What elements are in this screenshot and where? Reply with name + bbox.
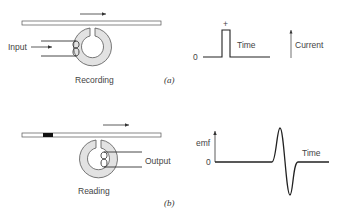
coil-winding-icon — [101, 152, 142, 167]
recording-caption: Recording — [75, 75, 114, 85]
reading-caption: Reading — [78, 186, 110, 196]
reading-head-icon — [80, 140, 118, 178]
input-label: Input — [8, 42, 28, 52]
magnetic-tape — [22, 133, 161, 137]
emf-label: emf — [196, 138, 211, 148]
time-label: Time — [237, 40, 256, 50]
current-label: Current — [295, 40, 324, 50]
panel-a-recording: Input Recording (a) 0 + Time Current — [8, 14, 324, 85]
panel-a-label: (a) — [164, 75, 175, 85]
magnetized-region — [43, 133, 53, 137]
time-label: Time — [302, 148, 321, 158]
panel-b-label: (b) — [164, 198, 175, 208]
recording-head-icon — [73, 28, 111, 66]
zero-label: 0 — [206, 157, 211, 167]
output-label: Output — [145, 156, 171, 166]
zero-label: 0 — [193, 52, 198, 62]
magnetic-recording-diagram: Input Recording (a) 0 + Time Current Ou — [0, 0, 345, 218]
panel-b-reading: Output Reading (b) emf 0 Time — [22, 125, 329, 208]
plus-label: + — [223, 19, 228, 29]
magnetic-tape — [22, 21, 161, 25]
emf-graph: emf 0 Time — [196, 128, 329, 195]
current-pulse-graph: 0 + Time Current — [193, 19, 324, 62]
